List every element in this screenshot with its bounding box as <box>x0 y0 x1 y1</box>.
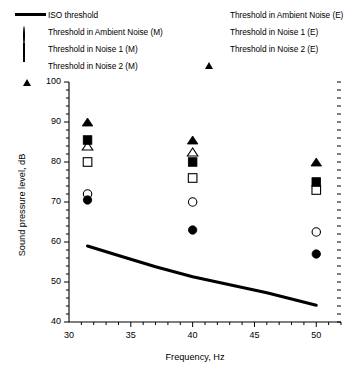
figure-container: ISO threshold Threshold in Ambient Noise… <box>0 0 360 375</box>
x-tick-label: 40 <box>180 330 206 340</box>
x-tick-label: 30 <box>56 330 82 340</box>
y-axis-title: Sound pressure level, dB <box>17 125 27 285</box>
series-iso-threshold <box>88 246 317 305</box>
x-tick-label: 35 <box>118 330 144 340</box>
series-threshold-in-noise-2-e <box>82 118 321 166</box>
series-threshold-in-noise-2-m <box>82 142 198 156</box>
x-tick-label: 45 <box>241 330 267 340</box>
x-axis-title: Frequency, Hz <box>70 352 320 362</box>
x-tick-label: 50 <box>303 330 329 340</box>
y-tick-label: 90 <box>39 116 61 126</box>
series-threshold-in-ambient-noise-m <box>83 190 320 236</box>
y-tick-label: 80 <box>39 156 61 166</box>
y-tick-label: 60 <box>39 236 61 246</box>
plot-area: Sound pressure level, dB Frequency, Hz 4… <box>0 0 360 375</box>
y-tick-label: 100 <box>35 76 61 86</box>
y-tick-label: 50 <box>39 276 61 286</box>
y-tick-label: 70 <box>39 196 61 206</box>
series-threshold-in-ambient-noise-e <box>83 196 320 258</box>
series-threshold-in-noise-1-e <box>83 136 320 187</box>
y-tick-label: 40 <box>39 316 61 326</box>
series-threshold-in-noise-1-m <box>83 158 320 195</box>
